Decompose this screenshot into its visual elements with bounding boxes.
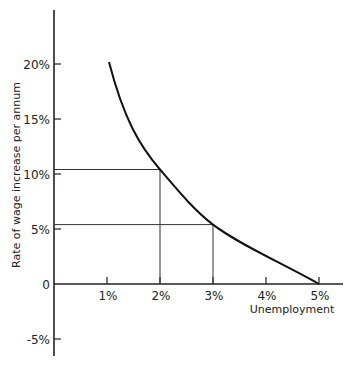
y-ticks — [54, 64, 61, 339]
phillips-curve-line — [109, 62, 319, 284]
guide-lines — [54, 170, 213, 285]
y-tick-label-neg5: -5% — [27, 333, 50, 347]
x-tick-label-4: 4% — [257, 289, 276, 303]
y-axis-title: Rate of wage increase per annum — [10, 82, 23, 268]
x-tick-label-1: 1% — [98, 289, 117, 303]
phillips-curve-chart: 20% 15% 10% 5% 0 -5% 1% 2% 3% 4% 5% Unem… — [0, 0, 357, 369]
y-tick-label-0: 0 — [42, 278, 50, 292]
x-tick-label-5: 5% — [310, 289, 329, 303]
x-tick-label-2: 2% — [151, 289, 170, 303]
y-tick-label-5: 5% — [31, 223, 50, 237]
y-tick-label-20: 20% — [23, 58, 50, 72]
x-axis-title: Unemployment — [250, 303, 335, 316]
y-tick-label-10: 10% — [23, 168, 50, 182]
y-tick-label-15: 15% — [23, 113, 50, 127]
x-tick-label-3: 3% — [204, 289, 223, 303]
